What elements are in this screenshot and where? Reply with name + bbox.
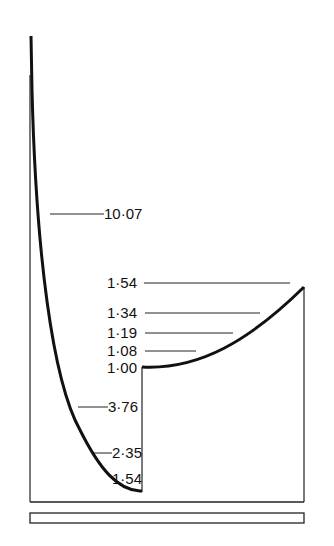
label-1-54-top: 1·54 — [107, 274, 137, 291]
label-2-35: 2·35 — [112, 444, 142, 461]
right-rising-curve — [142, 287, 304, 367]
label-1-54-bottom: 1·54 — [112, 470, 142, 487]
base-bar — [30, 513, 304, 523]
left-decay-curve — [31, 36, 142, 491]
label-1-08: 1·08 — [107, 342, 137, 359]
diagram-canvas: 10·07 3·76 2·35 1·54 1·54 1·34 1·19 1·08… — [0, 0, 334, 546]
label-3-76: 3·76 — [108, 398, 138, 415]
label-1-34: 1·34 — [107, 304, 137, 321]
label-1-00: 1·00 — [107, 359, 137, 376]
label-1-19: 1·19 — [107, 324, 137, 341]
label-10-07: 10·07 — [104, 205, 142, 222]
